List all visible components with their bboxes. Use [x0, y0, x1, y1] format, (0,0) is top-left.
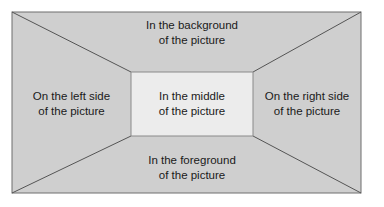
foreground-label: In the foreground of the picture: [131, 153, 253, 183]
left-side-label-line2: of the picture: [12, 104, 131, 119]
left-side-label-line1: On the left side: [12, 89, 131, 104]
right-side-label: On the right side of the picture: [253, 89, 361, 119]
right-side-label-line2: of the picture: [253, 104, 361, 119]
foreground-label-line1: In the foreground: [131, 153, 253, 168]
background-label: In the background of the picture: [131, 18, 253, 48]
middle-label-line2: of the picture: [131, 104, 253, 119]
middle-label-line1: In the middle: [131, 89, 253, 104]
middle-label: In the middle of the picture: [131, 89, 253, 119]
right-side-label-line1: On the right side: [253, 89, 361, 104]
background-label-line2: of the picture: [131, 33, 253, 48]
foreground-label-line2: of the picture: [131, 168, 253, 183]
background-label-line1: In the background: [131, 18, 253, 33]
left-side-label: On the left side of the picture: [12, 89, 131, 119]
